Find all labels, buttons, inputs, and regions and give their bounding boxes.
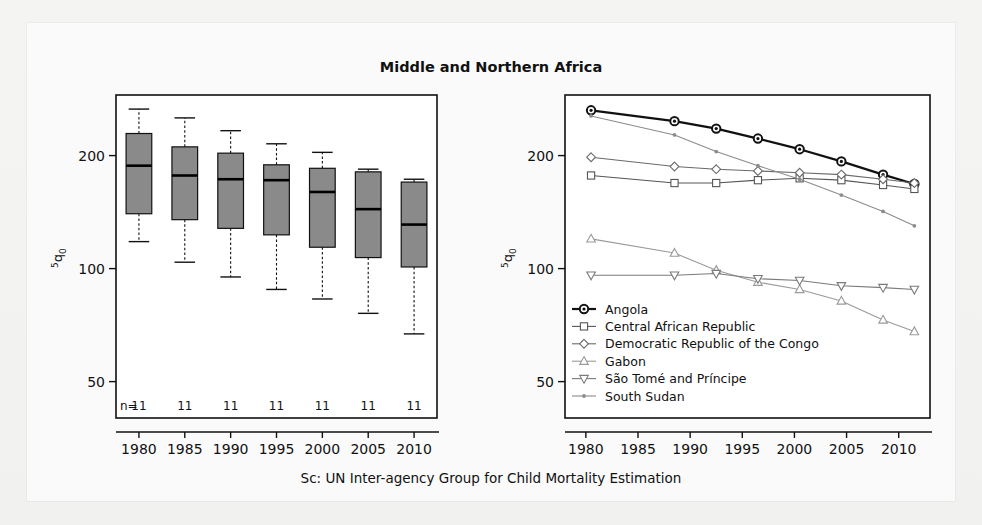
series-marker [714, 150, 718, 154]
series-marker [756, 137, 759, 140]
y-tick-label-left: 100 [78, 261, 105, 277]
x-tick-label-left: 1980 [121, 441, 157, 457]
box-iqr [264, 165, 290, 235]
y-tick-label-left: 50 [87, 374, 105, 390]
x-tick-label-left: 1995 [259, 441, 295, 457]
box-count-label: 11 [315, 399, 330, 413]
series-marker [715, 127, 718, 130]
box-count-label: 11 [223, 399, 238, 413]
box-iqr [172, 147, 198, 220]
series-marker [839, 193, 843, 197]
series-marker [754, 177, 761, 184]
legend-label: São Tomé and Príncipe [605, 371, 747, 386]
line-plot-area [565, 95, 930, 418]
series-marker [756, 164, 760, 168]
x-tick-label-left: 2000 [305, 441, 341, 457]
legend-marker [580, 323, 587, 330]
x-tick-label-right: 2005 [829, 441, 865, 457]
figure-canvas: Middle and Northern Africa 501002005q0n=… [0, 0, 982, 525]
y-axis-label-left: 5q0 [50, 248, 68, 268]
series-marker [589, 114, 593, 118]
legend-item[interactable]: Democratic Republic of the Congo [572, 336, 819, 351]
x-tick-label-left: 1990 [213, 441, 249, 457]
legend-marker [582, 394, 586, 398]
series-marker [798, 148, 801, 151]
x-tick-label-right: 1985 [620, 441, 656, 457]
box-count-label: 11 [131, 399, 146, 413]
series-marker [673, 120, 676, 123]
x-tick-label-left: 2005 [350, 441, 386, 457]
x-tick-label-right: 1990 [672, 441, 708, 457]
box-count-label: 11 [406, 399, 421, 413]
boxplot-panel: 501002005q0n=111980111985111990111995112… [50, 95, 439, 457]
series-marker [840, 160, 843, 163]
series-marker [671, 179, 678, 186]
chart-svg: Middle and Northern Africa 501002005q0n=… [0, 0, 982, 525]
series-marker [881, 210, 885, 214]
legend-marker [582, 307, 585, 310]
y-tick-label-left: 200 [78, 148, 105, 164]
page-title: Middle and Northern Africa [380, 59, 602, 75]
box-count-label: 11 [361, 399, 376, 413]
line-panel: 501002005q01980198519901995200020052010A… [500, 95, 932, 457]
legend-label: Democratic Republic of the Congo [605, 336, 819, 351]
legend-label: South Sudan [605, 389, 685, 404]
x-tick-label-left: 1985 [167, 441, 203, 457]
legend-label: Angola [605, 302, 648, 317]
x-tick-label-right: 1980 [568, 441, 604, 457]
legend-label: Gabon [605, 354, 646, 369]
series-marker [587, 172, 594, 179]
series-marker [589, 109, 592, 112]
series-marker [713, 179, 720, 186]
x-tick-label-left: 2010 [396, 441, 432, 457]
box-iqr [218, 153, 244, 228]
series-marker [912, 224, 916, 228]
x-tick-label-right: 1995 [724, 441, 760, 457]
series-marker [673, 133, 677, 137]
box-count-label: 11 [177, 399, 192, 413]
source-caption: Sc: UN Inter-agency Group for Child Mort… [301, 470, 682, 486]
y-tick-label-right: 100 [527, 261, 554, 277]
x-tick-label-right: 2010 [881, 441, 917, 457]
x-tick-label-right: 2000 [777, 441, 813, 457]
box-count-label: 11 [269, 399, 284, 413]
y-tick-label-right: 50 [536, 374, 554, 390]
series-marker [798, 177, 802, 181]
y-tick-label-right: 200 [527, 148, 554, 164]
y-axis-label-right: 5q0 [500, 248, 518, 268]
legend-label: Central African Republic [605, 319, 756, 334]
box-iqr [310, 168, 336, 247]
box-iqr [126, 134, 152, 214]
box-iqr [355, 172, 381, 258]
